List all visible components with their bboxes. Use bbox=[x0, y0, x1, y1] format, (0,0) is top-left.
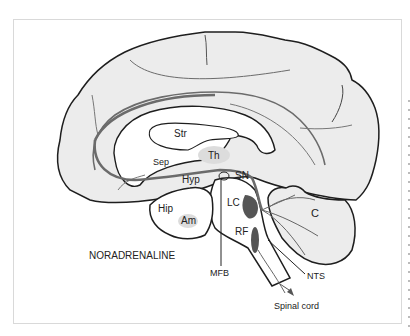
label-rf: RF bbox=[235, 226, 248, 237]
label-mfb: MFB bbox=[210, 268, 229, 278]
label-c: C bbox=[311, 207, 319, 219]
label-spinal-cord: Spinal cord bbox=[274, 301, 319, 311]
reticular-formation bbox=[251, 227, 259, 253]
label-lc: LC bbox=[227, 197, 240, 208]
label-hip: Hip bbox=[158, 203, 173, 214]
figure-title: NORADRENALINE bbox=[89, 250, 175, 261]
label-am: Am bbox=[181, 215, 196, 226]
label-sn: SN bbox=[235, 170, 249, 181]
label-sep: Sep bbox=[153, 157, 169, 167]
label-nts: NTS bbox=[307, 271, 325, 281]
label-hyp: Hyp bbox=[182, 174, 200, 185]
brain-diagram: Str Th Sep Hyp SN LC Hip Am RF C MFB NTS… bbox=[0, 0, 410, 336]
label-th: Th bbox=[208, 150, 220, 161]
label-str: Str bbox=[174, 128, 187, 139]
